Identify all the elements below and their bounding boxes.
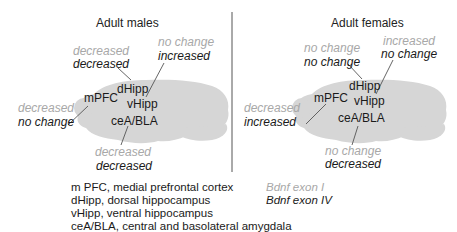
female-mpfc-label: mPFC	[314, 91, 348, 105]
male-dhipp-exon1: decreased	[73, 44, 129, 58]
abbreviation-vhipp: vHipp, ventral hippocampus	[71, 207, 292, 220]
female-vhipp-exon1: increased	[383, 34, 435, 48]
abbreviation-ceabla: ceA/BLA, central and basolateral amygdal…	[71, 220, 292, 232]
female-vhipp-exon4: no change	[381, 47, 437, 61]
female-mpfc-exon1: decreased	[244, 101, 300, 115]
male-ceabla-exon1: decreased	[95, 145, 151, 159]
female-ceabla-exon1: no change	[325, 144, 381, 158]
female-panel-title: Adult females	[331, 16, 404, 30]
key-exon1: Bdnf exon I	[266, 181, 332, 194]
exon-key: Bdnf exon I Bdnf exon IV	[266, 181, 332, 207]
female-dhipp-exon4: no change	[304, 55, 360, 69]
female-vhipp-label: vHipp	[354, 94, 385, 108]
female-mpfc-exon4: increased	[244, 115, 296, 129]
male-panel-title: Adult males	[96, 16, 159, 30]
female-dhipp-label: dHipp	[349, 79, 380, 93]
male-dhipp-label: dHipp	[117, 82, 148, 96]
abbreviation-legend: m PFC, medial prefrontal cortex dHipp, d…	[71, 181, 292, 232]
male-mpfc-exon4: no change	[18, 115, 74, 129]
male-mpfc-label: mPFC	[84, 91, 118, 105]
key-exon4: Bdnf exon IV	[266, 194, 332, 207]
male-ceabla-exon4: decreased	[96, 159, 152, 173]
male-mpfc-exon1: decreased	[18, 101, 74, 115]
male-dhipp-exon4: decreased	[73, 57, 129, 71]
female-ceabla-exon4: decreased	[325, 157, 381, 171]
female-ceabla-label: ceA/BLA	[338, 111, 385, 125]
male-vhipp-exon4: increased	[158, 49, 210, 63]
female-dhipp-exon1: no change	[304, 41, 360, 55]
male-vhipp-exon1: no change	[158, 35, 214, 49]
male-vhipp-label: vHipp	[127, 97, 158, 111]
male-ceabla-label: ceA/BLA	[111, 114, 158, 128]
abbreviation-mpfc: m PFC, medial prefrontal cortex	[71, 181, 292, 194]
abbreviation-dhipp: dHipp, dorsal hippocampus	[71, 194, 292, 207]
